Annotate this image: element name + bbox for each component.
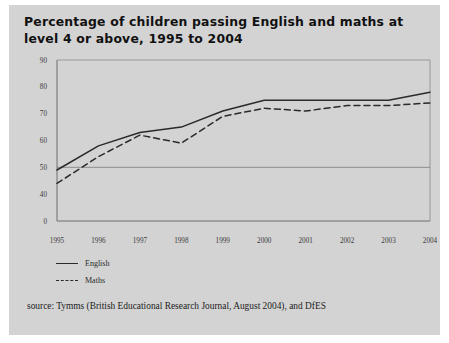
legend-item-maths: Maths (56, 272, 256, 289)
source-note: source: Tymms (British Educational Resea… (27, 301, 326, 311)
x-tick-label: 2004 (423, 237, 438, 245)
x-axis-tick-labels: 1995199619971998199920002001200220032004 (50, 237, 438, 245)
x-tick-label: 2002 (340, 237, 355, 245)
x-tick-label: 2001 (298, 237, 313, 245)
y-tick-label: 90 (40, 57, 48, 65)
x-tick-label: 1998 (174, 237, 189, 245)
line-chart: 0405060708090 19951996199719981999200020… (9, 53, 440, 253)
y-tick-label: 50 (40, 164, 48, 172)
y-tick-label: 60 (40, 137, 48, 145)
y-tick-label: 40 (40, 191, 48, 199)
legend-key-dashed-line-icon (56, 276, 78, 286)
chart-series-lines (57, 92, 430, 183)
chart-legend: English Maths (56, 255, 256, 289)
x-tick-label: 2000 (257, 237, 272, 245)
y-tick-label: 80 (40, 83, 48, 91)
series-line-maths (57, 103, 430, 184)
x-tick-label: 1999 (216, 237, 231, 245)
x-tick-label: 1995 (50, 237, 65, 245)
series-line-english (57, 92, 430, 170)
x-tick-label: 1996 (91, 237, 106, 245)
legend-key-solid-line-icon (56, 259, 78, 269)
figure-title: Percentage of children passing English a… (24, 13, 424, 47)
y-tick-label: 70 (40, 110, 48, 118)
x-tick-label: 2003 (381, 237, 396, 245)
legend-label-english: English (85, 259, 109, 268)
chart-plot-area: 0405060708090 19951996199719981999200020… (9, 53, 440, 253)
legend-item-english: English (56, 255, 256, 272)
y-axis-tick-labels: 0405060708090 (40, 57, 48, 226)
legend-label-maths: Maths (85, 276, 105, 285)
x-tick-label: 1997 (133, 237, 148, 245)
figure-panel: Percentage of children passing English a… (9, 5, 440, 335)
y-tick-label: 0 (43, 218, 47, 226)
